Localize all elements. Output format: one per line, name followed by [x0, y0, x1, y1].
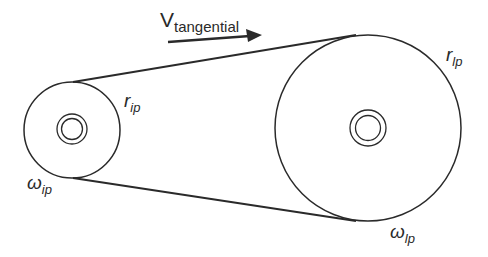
velocity-arrow-shaft [168, 36, 250, 42]
velocity-symbol: V [160, 8, 174, 31]
small-pulley-hub-inner [62, 119, 83, 140]
small-pulley [24, 82, 120, 178]
large-pulley [275, 35, 461, 221]
large-omega-subscript: lp [405, 231, 415, 246]
velocity-subscript: tangential [174, 18, 239, 35]
small-radius-label: rip [124, 90, 140, 112]
large-radius-subscript: lp [452, 54, 462, 69]
belt-bottom-span [73, 178, 356, 221]
belt-drive-diagram: Vtangential rip ωip rlp ωlp [0, 0, 488, 257]
large-pulley-hub-inner [356, 116, 381, 141]
large-omega-label: ωlp [390, 221, 415, 243]
belt-top-span [73, 35, 356, 82]
velocity-arrowhead-icon [246, 29, 262, 42]
large-omega-symbol: ω [390, 221, 405, 242]
diagram-graphics [0, 0, 488, 257]
small-omega-label: ωip [27, 172, 52, 194]
small-omega-symbol: ω [27, 172, 42, 193]
small-radius-subscript: ip [130, 100, 140, 115]
small-omega-subscript: ip [42, 182, 52, 197]
large-radius-label: rlp [446, 44, 462, 66]
velocity-label: Vtangential [160, 8, 239, 32]
